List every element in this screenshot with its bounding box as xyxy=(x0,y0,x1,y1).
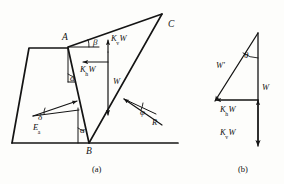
caption-panel-b: (b) xyxy=(238,165,248,174)
force-kh-w-label-panel-a: KhW xyxy=(80,65,96,76)
force-kh-w-sub-b: h xyxy=(225,111,228,117)
figure-root: A B C β α α δ φ KvW KhW W Ea R (a) θ W′ … xyxy=(0,0,284,184)
force-kv-w-sub: v xyxy=(116,40,119,46)
force-r-label: R xyxy=(152,118,157,127)
retaining-wall xyxy=(12,48,89,143)
force-kh-w-tail-b: W xyxy=(229,104,236,114)
force-kh-w-tail: W xyxy=(89,64,96,74)
force-ea-label: Ea xyxy=(33,123,41,134)
figure-linework xyxy=(0,0,284,184)
force-kh-w-sub: h xyxy=(85,71,88,77)
force-kv-w-sub-b: v xyxy=(225,134,228,140)
angle-alpha-bottom-label: α xyxy=(80,126,85,135)
arc-delta xyxy=(44,108,45,114)
force-kv-w-label-panel-a: KvW xyxy=(111,34,127,45)
force-kv-w-label-panel-b: KvW xyxy=(220,128,236,139)
force-w-label-panel-b: W xyxy=(262,83,269,92)
point-b-label: B xyxy=(86,147,92,157)
angle-alpha-top-label: α xyxy=(70,74,75,83)
force-ea-sub: a xyxy=(38,129,41,135)
angle-theta-label: θ xyxy=(244,51,248,60)
angle-beta-label: β xyxy=(93,38,97,47)
force-kv-w-tail-b: W xyxy=(229,127,236,137)
arc-beta xyxy=(88,40,89,48)
caption-panel-a: (a) xyxy=(92,165,101,174)
point-a-label: A xyxy=(62,33,68,43)
force-w-label-panel-a: W xyxy=(113,77,120,86)
force-kv-w-tail: W xyxy=(120,33,127,43)
angle-delta-label: δ xyxy=(38,113,42,122)
force-w-prime-label: W′ xyxy=(216,61,225,70)
angle-phi-label: φ xyxy=(140,108,145,117)
force-kh-w-label-panel-b: KhW xyxy=(220,105,236,116)
point-c-label: C xyxy=(168,20,174,30)
